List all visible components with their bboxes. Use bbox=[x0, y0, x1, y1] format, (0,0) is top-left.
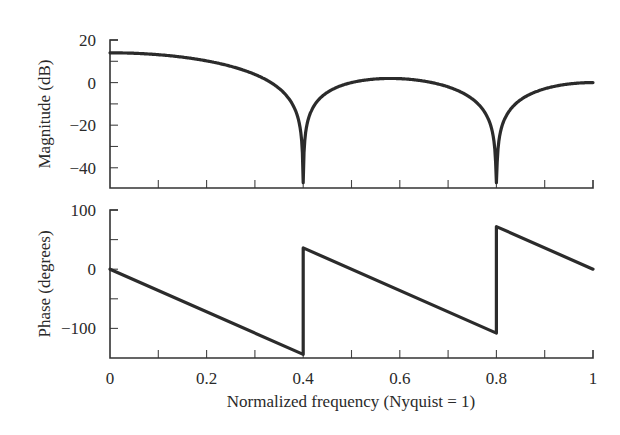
ytick-label: −100 bbox=[61, 319, 96, 338]
magnitude-ylabel: Magnitude (dB) bbox=[35, 59, 54, 168]
phase-axis bbox=[110, 210, 593, 358]
ytick-label: −20 bbox=[69, 116, 96, 135]
magnitude-curve bbox=[110, 53, 593, 183]
xtick-label: 0.2 bbox=[196, 369, 217, 388]
ytick-label: −40 bbox=[69, 159, 96, 178]
phase-ylabel: Phase (degrees) bbox=[35, 230, 54, 337]
magnitude-axis bbox=[110, 40, 593, 188]
magnitude-panel: 200−20−40 Magnitude (dB) bbox=[35, 31, 593, 188]
frequency-xlabel: Normalized frequency (Nyquist = 1) bbox=[227, 392, 475, 411]
phase-panel: 1000−100 00.20.40.60.81 Phase (degrees) … bbox=[35, 201, 597, 411]
phase-axis-ticks bbox=[110, 210, 545, 358]
xtick-label: 0 bbox=[106, 369, 115, 388]
ytick-label: 0 bbox=[88, 74, 97, 93]
magnitude-axis-ticks bbox=[110, 40, 545, 188]
ytick-label: 100 bbox=[71, 201, 97, 220]
xtick-label: 1 bbox=[589, 369, 598, 388]
xtick-label: 0.4 bbox=[293, 369, 315, 388]
frequency-xtick-labels: 00.20.40.60.81 bbox=[106, 369, 598, 388]
xtick-label: 0.6 bbox=[389, 369, 410, 388]
phase-ytick-labels: 1000−100 bbox=[61, 201, 96, 338]
frequency-response-figure: 200−20−40 Magnitude (dB) 1000−100 00.20.… bbox=[0, 0, 620, 435]
magnitude-ytick-labels: 200−20−40 bbox=[69, 31, 96, 178]
phase-curve bbox=[110, 227, 593, 355]
ytick-label: 20 bbox=[79, 31, 96, 50]
xtick-label: 0.8 bbox=[486, 369, 507, 388]
ytick-label: 0 bbox=[88, 260, 97, 279]
